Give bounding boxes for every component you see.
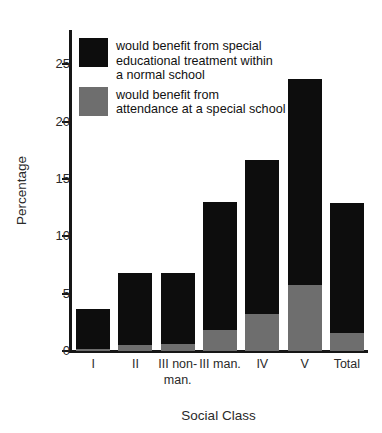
chart-legend: would benefit from special educational t… bbox=[79, 38, 329, 121]
y-axis-tick-label: 5 bbox=[44, 287, 70, 300]
x-axis-label: I bbox=[72, 357, 114, 373]
legend-swatch-grey bbox=[79, 87, 108, 116]
x-axis-label: III man. bbox=[199, 357, 241, 373]
bar-chart: 0510152025 Percentage IIIIII non- man.II… bbox=[0, 0, 382, 433]
bar-segment-special-school bbox=[118, 345, 152, 351]
bar-segment-normal-school bbox=[161, 273, 195, 344]
bar-segment-normal-school bbox=[118, 273, 152, 345]
bar-segment-special-school bbox=[330, 333, 364, 351]
bar-total bbox=[330, 203, 364, 351]
bar-segment-normal-school bbox=[76, 309, 110, 349]
y-axis-tick-label: 0 bbox=[44, 344, 70, 357]
legend-entry: would benefit from attendance at a speci… bbox=[79, 87, 329, 117]
bar-ii bbox=[118, 273, 152, 351]
bar-segment-special-school bbox=[76, 349, 110, 351]
x-axis-label: V bbox=[283, 357, 325, 373]
bar-iii-man- bbox=[203, 202, 237, 351]
y-axis-tick-label: 15 bbox=[44, 172, 70, 185]
legend-label: would benefit from special educational t… bbox=[116, 38, 273, 83]
bar-segment-special-school bbox=[161, 344, 195, 351]
x-axis-label: III non- man. bbox=[157, 357, 199, 388]
bar-iii-non-man- bbox=[161, 273, 195, 351]
y-axis-tick-label: 25 bbox=[44, 57, 70, 70]
x-axis-label: Total bbox=[326, 357, 368, 373]
x-axis-label: II bbox=[114, 357, 156, 373]
bar-segment-special-school bbox=[245, 314, 279, 351]
bar-iv bbox=[245, 160, 279, 351]
legend-label: would benefit from attendance at a speci… bbox=[116, 87, 285, 117]
bar-segment-normal-school bbox=[245, 160, 279, 315]
bar-segment-special-school bbox=[288, 285, 322, 351]
legend-swatch-black bbox=[79, 38, 108, 67]
y-axis-tick-label: 20 bbox=[44, 115, 70, 128]
bar-segment-special-school bbox=[203, 330, 237, 351]
y-axis-title: Percentage bbox=[14, 131, 29, 251]
x-axis-label: IV bbox=[241, 357, 283, 373]
bar-segment-normal-school bbox=[330, 203, 364, 333]
bar-segment-normal-school bbox=[203, 202, 237, 330]
y-axis-tick-label: 10 bbox=[44, 229, 70, 242]
bar-i bbox=[76, 309, 110, 351]
x-axis-title: Social Class bbox=[69, 408, 368, 423]
legend-entry: would benefit from special educational t… bbox=[79, 38, 329, 83]
